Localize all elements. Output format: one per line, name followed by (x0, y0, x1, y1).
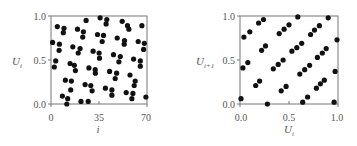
data-point (78, 46, 83, 51)
data-point (101, 33, 106, 38)
left-xlabel: i (96, 123, 99, 135)
data-point (84, 18, 89, 23)
data-point (282, 27, 287, 32)
figure: 1.0 0.5 0.0 0 35 70 i U i 1.0 0.5 0.0 0.… (0, 0, 357, 146)
data-point (318, 81, 323, 86)
data-point (307, 63, 312, 68)
data-point (240, 65, 245, 70)
left-ytick-05: 0.5 (34, 55, 47, 66)
data-point (132, 83, 137, 88)
data-point (138, 58, 143, 63)
data-point (55, 24, 60, 29)
right-ytick-0: 0.0 (223, 99, 236, 110)
svg-text:i: i (292, 130, 294, 138)
svg-text:i: i (20, 62, 22, 70)
data-point (100, 39, 105, 44)
data-point (129, 96, 134, 101)
left-ytick-0: 0.0 (34, 99, 47, 110)
data-point (75, 27, 80, 32)
data-point (315, 55, 320, 60)
right-xlabel: U i (284, 123, 294, 138)
data-point (286, 22, 291, 27)
data-point (63, 78, 68, 83)
data-point (247, 29, 252, 34)
data-point (238, 96, 243, 101)
data-point (109, 87, 114, 92)
data-point (70, 44, 75, 49)
data-point (294, 45, 299, 50)
data-point (83, 82, 88, 87)
data-point (139, 23, 144, 28)
data-point (263, 43, 268, 48)
data-point (277, 31, 282, 36)
data-point (60, 94, 65, 99)
data-point (289, 49, 294, 54)
data-point (143, 94, 148, 99)
data-point (97, 50, 102, 55)
data-point (284, 84, 289, 89)
data-point (114, 71, 119, 76)
data-point (261, 17, 266, 22)
data-point (64, 101, 69, 106)
data-point (88, 83, 93, 88)
data-point (317, 23, 322, 28)
data-point (142, 41, 147, 46)
data-point (80, 35, 85, 40)
data-point (93, 71, 98, 76)
data-point (245, 60, 250, 65)
data-point (118, 54, 123, 59)
data-point (333, 69, 338, 74)
data-point (57, 48, 62, 53)
left-ytick-1: 1.0 (34, 11, 47, 22)
right-plot-frame (240, 16, 338, 104)
data-point (130, 91, 135, 96)
data-point (122, 38, 127, 43)
data-point (305, 94, 310, 99)
data-point (78, 99, 83, 104)
left-xtick-70: 70 (141, 112, 151, 123)
data-point (299, 41, 304, 46)
data-point (276, 62, 281, 67)
data-point (326, 15, 331, 20)
data-point (133, 79, 138, 84)
right-xtick-1: 1.0 (331, 112, 344, 123)
data-point (300, 100, 305, 105)
data-point (98, 15, 103, 20)
data-point (314, 86, 319, 91)
data-point (127, 72, 132, 77)
data-point (297, 72, 302, 77)
data-point (91, 49, 96, 54)
data-point (241, 35, 246, 40)
data-point (256, 20, 261, 25)
data-point (61, 30, 66, 35)
data-point (109, 93, 114, 98)
data-point (312, 28, 317, 33)
left-xtick-0: 0 (49, 112, 54, 123)
data-point (50, 40, 55, 45)
data-point (253, 83, 258, 88)
data-point (302, 67, 307, 72)
data-point (107, 69, 112, 74)
right-xtick-05: 0.5 (283, 112, 296, 123)
data-point (279, 88, 284, 93)
data-point (320, 50, 325, 55)
data-point (52, 64, 57, 69)
data-point (141, 47, 146, 52)
data-point (113, 76, 118, 81)
data-point (271, 66, 276, 71)
left-ylabel: U i (12, 55, 22, 70)
data-point (103, 86, 108, 91)
data-point (259, 48, 264, 53)
data-point (53, 58, 58, 63)
right-xtick-0: 0.0 (235, 112, 248, 123)
data-point (126, 27, 131, 32)
data-point (69, 79, 74, 84)
data-point (138, 64, 143, 69)
data-point (324, 46, 329, 51)
data-point (308, 32, 313, 37)
data-point (115, 35, 120, 40)
left-xtick-35: 35 (94, 112, 104, 123)
data-point (104, 21, 109, 26)
left-plot: 1.0 0.5 0.0 0 35 70 i U i (12, 11, 151, 136)
left-plot-points (50, 15, 148, 106)
